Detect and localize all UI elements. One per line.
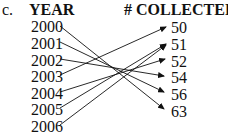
mapping-arrows [0,0,228,132]
arrow-2004-52 [60,59,165,92]
arrow-2001-56 [60,42,164,92]
